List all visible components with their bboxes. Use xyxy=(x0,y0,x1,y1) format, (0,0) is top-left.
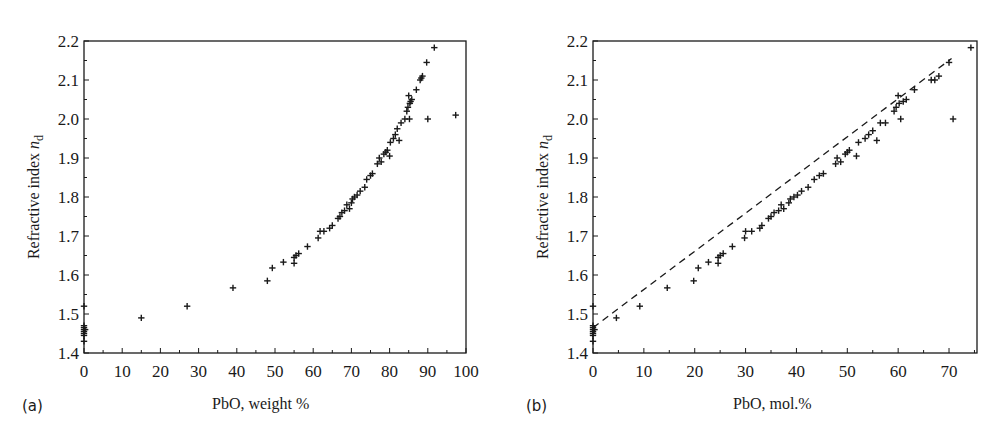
plus-marker-icon xyxy=(280,259,286,265)
plus-marker-icon xyxy=(394,126,400,132)
data-series xyxy=(590,44,974,344)
plus-marker-icon xyxy=(715,260,721,266)
plus-marker-icon xyxy=(882,120,888,126)
y-tick-label: 1.7 xyxy=(567,227,589,246)
plus-marker-icon xyxy=(870,128,876,134)
plot-frame xyxy=(593,41,977,353)
x-tick-label: 90 xyxy=(419,362,436,381)
plus-marker-icon xyxy=(805,184,811,190)
plus-marker-icon xyxy=(748,228,754,234)
y-tick-label: 1.8 xyxy=(58,188,79,207)
plus-marker-icon xyxy=(637,303,643,309)
plus-marker-icon xyxy=(874,137,880,143)
plus-marker-icon xyxy=(855,139,861,145)
plus-marker-icon xyxy=(932,77,938,83)
x-tick-label: 20 xyxy=(152,362,169,381)
plus-marker-icon xyxy=(950,116,956,122)
plus-marker-icon xyxy=(357,188,363,194)
y-axis-title: Refractive index nd xyxy=(534,135,555,259)
plus-marker-icon xyxy=(398,120,404,126)
plus-marker-icon xyxy=(691,278,697,284)
y-tick-label: 1.6 xyxy=(58,266,79,285)
plus-marker-icon xyxy=(363,176,369,182)
plus-marker-icon xyxy=(865,131,871,137)
x-tick-label: 70 xyxy=(343,362,360,381)
x-tick-label: 30 xyxy=(190,362,207,381)
y-tick-label: 2.2 xyxy=(58,32,79,51)
plus-marker-icon xyxy=(936,73,942,79)
y-tick-label: 1.6 xyxy=(567,266,588,285)
dashed-trend-line xyxy=(593,59,952,328)
plus-marker-icon xyxy=(729,243,735,249)
plus-marker-icon xyxy=(138,315,144,321)
y-axis-title: Refractive index nd xyxy=(25,135,46,259)
x-tick-label: 40 xyxy=(228,362,245,381)
plus-marker-icon xyxy=(321,228,327,234)
plus-marker-icon xyxy=(786,200,792,206)
plus-marker-icon xyxy=(431,44,437,50)
x-axis-title-b: PbO, mol.% xyxy=(733,395,812,413)
plus-marker-icon xyxy=(613,315,619,321)
x-tick-label: 0 xyxy=(80,362,89,381)
x-tick-label: 40 xyxy=(788,362,805,381)
chart-panel-b: 0102030405060701.41.51.61.71.81.92.02.12… xyxy=(499,0,998,446)
y-tick-label: 2.1 xyxy=(567,71,588,90)
x-tick-label: 100 xyxy=(453,362,479,381)
plus-marker-icon xyxy=(315,235,321,241)
plus-marker-icon xyxy=(811,176,817,182)
y-tick-label: 2.2 xyxy=(567,32,588,51)
plus-marker-icon xyxy=(862,135,868,141)
plus-marker-icon xyxy=(81,303,87,309)
plus-marker-icon xyxy=(404,108,410,114)
plot-frame xyxy=(84,41,466,353)
y-tick-label: 1.5 xyxy=(567,305,588,324)
plus-marker-icon xyxy=(425,116,431,122)
y-tick-label: 1.4 xyxy=(58,344,80,363)
plus-marker-icon xyxy=(184,303,190,309)
plus-marker-icon xyxy=(798,188,804,194)
plus-marker-icon xyxy=(386,153,392,159)
plus-marker-icon xyxy=(230,285,236,291)
plus-marker-icon xyxy=(742,228,748,234)
y-tick-label: 1.8 xyxy=(567,188,588,207)
x-tick-label: 50 xyxy=(267,362,284,381)
plus-marker-icon xyxy=(741,235,747,241)
plus-marker-icon xyxy=(946,59,952,65)
plus-marker-icon xyxy=(452,112,458,118)
panel-label-a: (a) xyxy=(22,397,43,415)
x-tick-label: 80 xyxy=(381,362,398,381)
y-tick-label: 2.0 xyxy=(567,110,588,129)
plus-marker-icon xyxy=(423,59,429,65)
plus-marker-icon xyxy=(664,285,670,291)
plus-marker-icon xyxy=(898,116,904,122)
plus-marker-icon xyxy=(387,139,393,145)
y-tick-label: 1.5 xyxy=(58,305,79,324)
plus-marker-icon xyxy=(695,265,701,271)
y-tick-label: 1.4 xyxy=(567,344,589,363)
plus-marker-icon xyxy=(853,153,859,159)
plus-marker-icon xyxy=(291,260,297,266)
x-tick-label: 0 xyxy=(589,362,598,381)
y-tick-label: 1.9 xyxy=(58,149,79,168)
x-tick-label: 60 xyxy=(890,362,907,381)
x-tick-label: 10 xyxy=(635,362,652,381)
plus-marker-icon xyxy=(304,243,310,249)
plus-marker-icon xyxy=(81,338,87,344)
data-series xyxy=(81,44,459,344)
plus-marker-icon xyxy=(705,259,711,265)
plus-marker-icon xyxy=(590,303,596,309)
x-tick-label: 70 xyxy=(941,362,958,381)
x-tick-label: 20 xyxy=(686,362,703,381)
y-tick-label: 1.9 xyxy=(567,149,588,168)
plus-marker-icon xyxy=(895,92,901,98)
plus-marker-icon xyxy=(396,137,402,143)
y-tick-label: 2.1 xyxy=(58,71,79,90)
plus-marker-icon xyxy=(406,116,412,122)
x-tick-label: 30 xyxy=(737,362,754,381)
y-tick-label: 1.7 xyxy=(58,227,80,246)
plus-marker-icon xyxy=(413,87,419,93)
plus-marker-icon xyxy=(968,44,974,50)
scatter-plot-b: 0102030405060701.41.51.61.71.81.92.02.12… xyxy=(499,0,998,446)
chart-panel-a: 01020304050607080901001.41.51.61.71.81.9… xyxy=(0,0,499,446)
panel-label-b: (b) xyxy=(526,397,547,415)
